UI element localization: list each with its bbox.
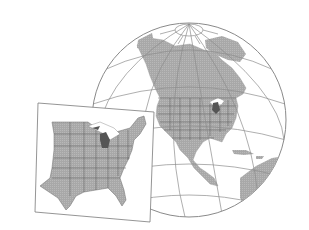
- globe-and-inset-svg: [0, 0, 309, 230]
- map-illustration: Orthographic globe of the Western Hemisp…: [0, 0, 309, 230]
- inset-map: [35, 103, 154, 222]
